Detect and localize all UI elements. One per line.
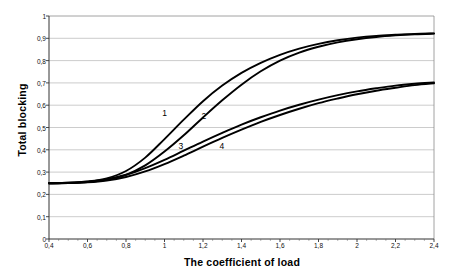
curve-label-2: 2: [202, 111, 207, 121]
x-axis-title: The coefficient of load: [49, 256, 435, 268]
plot-area: [0, 0, 459, 278]
curve-label-4: 4: [219, 141, 224, 151]
curve-label-1: 1: [162, 108, 167, 118]
curve-label-3: 3: [178, 141, 183, 151]
chart-container: Total blocking 00,10,20,30,40,50,60,70,8…: [0, 0, 459, 278]
